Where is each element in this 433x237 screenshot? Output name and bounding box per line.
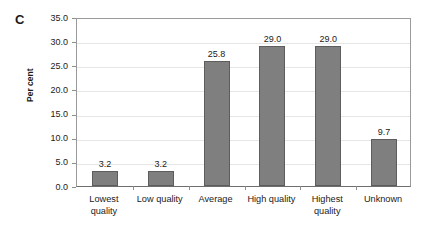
y-axis-tick-mark [72,187,76,188]
bar-value-label: 3.2 [137,160,185,169]
bar [204,61,230,186]
bar-value-label: 29.0 [304,35,352,44]
bar [315,46,341,186]
gridline [77,140,410,141]
bar-chart: C Per cent 35.030.025.020.015.010.05.00.… [0,0,433,237]
x-axis-tick-mark [133,186,134,190]
panel-label: C [15,13,25,26]
bar [92,171,118,186]
y-axis-tick-label: 30.0 [28,38,68,47]
x-axis-tick-label: Lowest quality [76,194,132,217]
bar-value-label: 9.7 [360,128,408,137]
y-axis-tick-label: 25.0 [28,62,68,71]
x-axis-tick-label: Average [188,194,244,206]
x-axis-tick-mark [356,186,357,190]
plot-area: 3.23.225.829.029.09.7 [76,18,411,187]
y-axis-tick-label: 15.0 [28,110,68,119]
gridline [77,91,410,92]
bar [148,171,174,186]
bar-value-label: 25.8 [193,50,241,59]
y-axis-tick-label: 0.0 [28,183,68,192]
y-axis-tick-label: 10.0 [28,134,68,143]
x-axis-tick-label: Low quality [132,194,188,206]
bar [259,46,285,186]
bar-value-label: 3.2 [81,160,129,169]
x-axis-tick-label: High quality [244,194,300,206]
bar-value-label: 29.0 [248,35,296,44]
gridline [77,43,410,44]
x-axis-tick-mark [245,186,246,190]
y-axis-tick-label: 35.0 [28,14,68,23]
x-axis-tick-mark [300,186,301,190]
y-axis-tick-label: 20.0 [28,86,68,95]
y-axis-tick-label: 5.0 [28,158,68,167]
x-axis-tick-mark [189,186,190,190]
x-axis-tick-label: Highest quality [299,194,355,217]
gridline [77,116,410,117]
x-axis-tick-label: Unknown [355,194,411,206]
bar [371,139,397,186]
gridline [77,67,410,68]
